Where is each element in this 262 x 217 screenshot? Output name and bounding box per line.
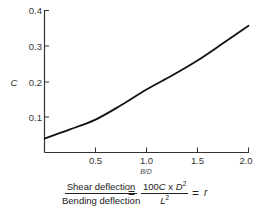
y-tick-label: 0.3	[29, 41, 42, 52]
shear-deflection-label: Shear deflection	[65, 181, 138, 194]
x-tick-label: 1.5	[191, 155, 204, 166]
formula-numerator: 100C x D2	[141, 181, 188, 194]
y-ticks	[45, 11, 50, 118]
x-tick-label: 2.0	[239, 155, 252, 166]
y-tick-label: 0.2	[29, 77, 42, 88]
y-tick-label: 0.4	[29, 5, 42, 16]
coefficient-fraction: 100C x D2 L2	[141, 181, 188, 206]
equals-sign-2: =	[192, 187, 199, 199]
y-tick-labels: 0.1 0.2 0.3 0.4	[29, 5, 42, 123]
formula-denominator: L2	[160, 194, 169, 206]
x-tick-label: 0.5	[89, 155, 102, 166]
y-tick-label: 0.1	[29, 112, 42, 123]
x-tick-labels: 0.5 1.0 1.5 2.0	[89, 155, 253, 166]
y-axis-title: C	[11, 77, 18, 88]
equals-sign: =	[128, 187, 135, 199]
formula: Shear deflection Bending deflection = 10…	[0, 181, 262, 211]
x-tick-label: 1.0	[140, 155, 153, 166]
ratio-result-r: r	[204, 187, 207, 199]
x-axis-title: B/D	[140, 168, 152, 175]
x-ticks	[96, 148, 249, 153]
data-line-c	[45, 26, 249, 139]
chart-area: 0.1 0.2 0.3 0.4 C 0.5 1.0 1.5 2.0 B/D	[0, 0, 262, 181]
